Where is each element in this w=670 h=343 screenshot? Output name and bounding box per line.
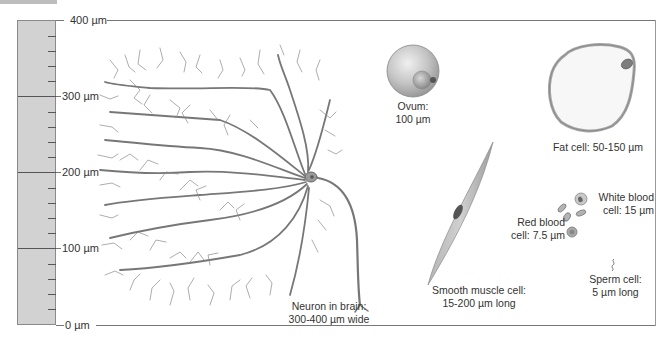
red-blood-cell-label-line2: cell: 7.5 µm bbox=[505, 229, 565, 242]
white-blood-cell-label-line2: cell: 15 µm bbox=[592, 204, 654, 217]
fat-cell-label: Fat cell: 50-150 µm bbox=[543, 141, 653, 154]
neuron-illustration bbox=[98, 45, 368, 312]
neuron-label: Neuron in brain: 300-400 µm wide bbox=[274, 300, 384, 326]
fat-cell-label-line1: Fat cell: 50-150 µm bbox=[543, 141, 653, 154]
ovum-label: Ovum: 100 µm bbox=[383, 100, 443, 126]
neuron-label-line1: Neuron in brain: bbox=[274, 300, 384, 313]
smooth-muscle-label: Smooth muscle cell: 15-200 µm long bbox=[424, 284, 534, 310]
ovum-label-line2: 100 µm bbox=[383, 113, 443, 126]
smooth-muscle-label-line1: Smooth muscle cell: bbox=[424, 284, 534, 297]
white-blood-cell-label-line1: White blood bbox=[592, 191, 654, 204]
fat-cell-illustration bbox=[549, 45, 634, 131]
white-blood-cell-illustration bbox=[575, 193, 587, 205]
smooth-muscle-illustration bbox=[428, 142, 493, 285]
ovum-illustration bbox=[387, 45, 439, 97]
sperm-cell-label-line2: 5 µm long bbox=[588, 286, 643, 299]
neuron-label-line2: 300-400 µm wide bbox=[274, 313, 384, 326]
sperm-cell-label: Sperm cell: 5 µm long bbox=[588, 273, 643, 299]
red-blood-cell-label-line1: Red blood bbox=[505, 216, 565, 229]
ovum-label-line1: Ovum: bbox=[383, 100, 443, 113]
red-blood-cell-label: Red blood cell: 7.5 µm bbox=[505, 216, 565, 242]
white-blood-cell-label: White blood cell: 15 µm bbox=[592, 191, 654, 217]
sperm-cell-label-line1: Sperm cell: bbox=[588, 273, 643, 286]
cell-illustrations bbox=[0, 0, 670, 343]
sperm-cell-illustration bbox=[612, 259, 614, 271]
smooth-muscle-label-line2: 15-200 µm long bbox=[424, 297, 534, 310]
